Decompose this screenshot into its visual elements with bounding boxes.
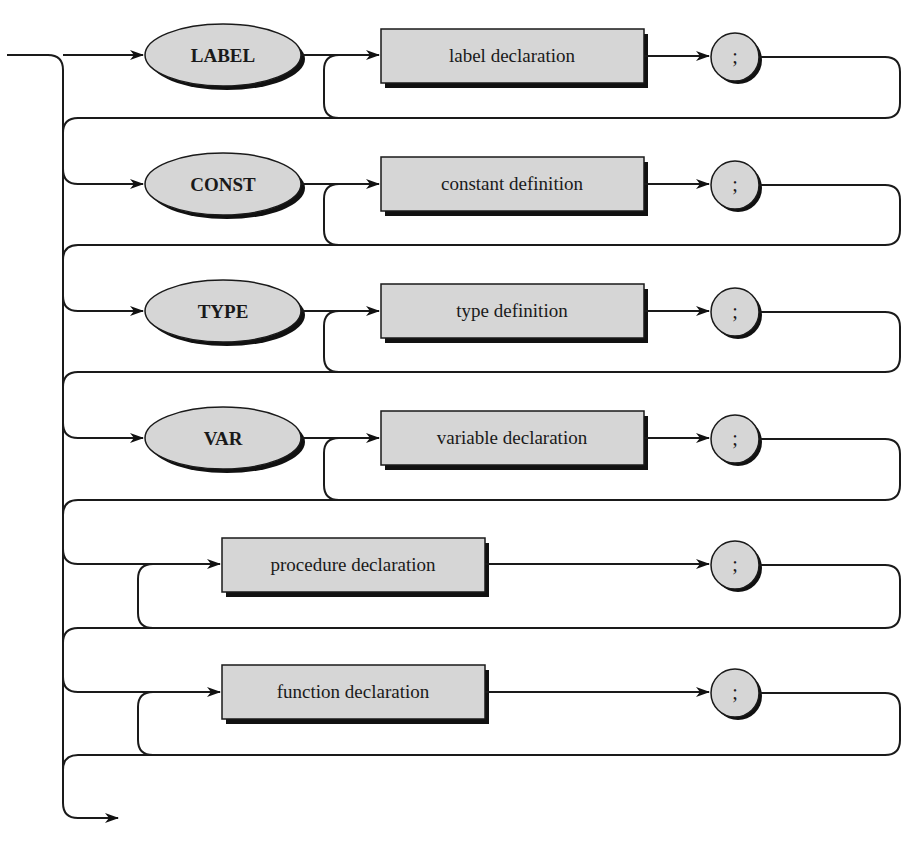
row-var: VAR variable declaration ; (63, 407, 900, 515)
row-procedure: procedure declaration ; (63, 538, 900, 643)
element-function-declaration: function declaration (277, 681, 430, 702)
element-label-declaration: label declaration (449, 45, 576, 66)
terminator-semicolon: ; (732, 681, 738, 703)
keyword-label: LABEL (191, 45, 255, 66)
terminator-semicolon: ; (732, 45, 738, 67)
terminator-semicolon: ; (732, 173, 738, 195)
syntax-diagram: LABEL label declaration ; CONST constant… (0, 0, 917, 846)
keyword-var: VAR (204, 428, 243, 449)
keyword-const: CONST (190, 174, 256, 195)
terminator-semicolon: ; (732, 300, 738, 322)
element-type-definition: type definition (456, 300, 568, 321)
element-constant-definition: constant definition (441, 173, 583, 194)
row-function: function declaration ; (63, 665, 900, 770)
keyword-type: TYPE (198, 301, 249, 322)
element-procedure-declaration: procedure declaration (270, 554, 436, 575)
row-type: TYPE type definition ; (63, 280, 900, 387)
terminator-semicolon: ; (732, 553, 738, 575)
element-variable-declaration: variable declaration (437, 427, 588, 448)
row-label: LABEL label declaration ; (63, 24, 900, 133)
row-const: CONST constant definition ; (63, 153, 900, 260)
terminator-semicolon: ; (732, 427, 738, 449)
